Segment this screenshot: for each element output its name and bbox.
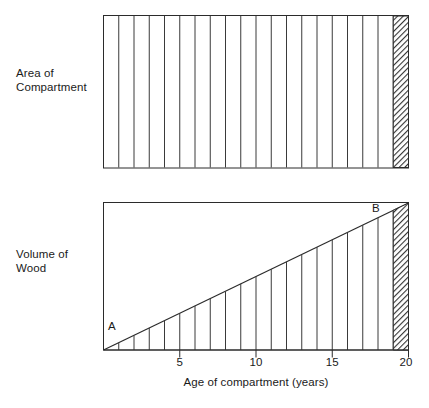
x-axis-title: Age of compartment (years)	[103, 376, 409, 388]
forestry-diagram: Area of Compartment Volume of Wood	[0, 0, 429, 408]
x-tick-label-5: 5	[177, 356, 183, 368]
area-hatched-compartment	[393, 16, 408, 168]
area-panel-y-axis-label: Area of Compartment	[16, 66, 108, 94]
volume-accumulation-line	[104, 203, 409, 350]
area-of-compartment-plot	[104, 16, 409, 169]
volume-hatched-compartment	[393, 203, 408, 350]
x-axis-ticks	[180, 350, 409, 358]
x-tick-label-10: 10	[250, 356, 263, 368]
volume-of-wood-plot	[104, 203, 409, 358]
volume-plot-frame	[104, 203, 409, 351]
area-compartment-dividers	[119, 16, 394, 168]
volume-compartment-bars	[119, 210, 394, 350]
x-tick-label-20: 20	[400, 356, 413, 368]
point-b-label: B	[372, 202, 380, 214]
area-plot-frame	[104, 16, 409, 169]
x-tick-label-15: 15	[326, 356, 339, 368]
volume-panel-y-axis-label: Volume of Wood	[16, 247, 108, 275]
charts-canvas	[0, 0, 429, 408]
point-a-label: A	[108, 320, 116, 332]
